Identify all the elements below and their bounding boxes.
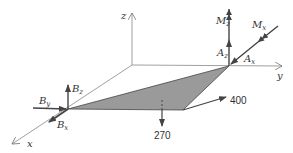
free-body-diagram: z y x Mz Mx Az Ax By Bz Bx 400 270 [0,0,293,153]
load-400-label: 400 [230,95,247,106]
force-arrow-by [33,108,66,109]
bx-label: Bx [56,119,68,132]
ax-label: Ax [243,53,255,66]
mx-label: Mx [251,19,266,32]
az-label: Az [216,47,228,60]
by-label: By [38,95,51,108]
load-270-label: 270 [154,130,171,141]
y-axis [132,65,282,66]
x-axis-label: x [27,138,33,149]
coordinate-axes [12,13,282,144]
z-axis-label: z [120,10,127,21]
y-axis-label: y [276,70,283,81]
mz-label: Mz [215,15,230,28]
bz-label: Bz [71,83,83,96]
